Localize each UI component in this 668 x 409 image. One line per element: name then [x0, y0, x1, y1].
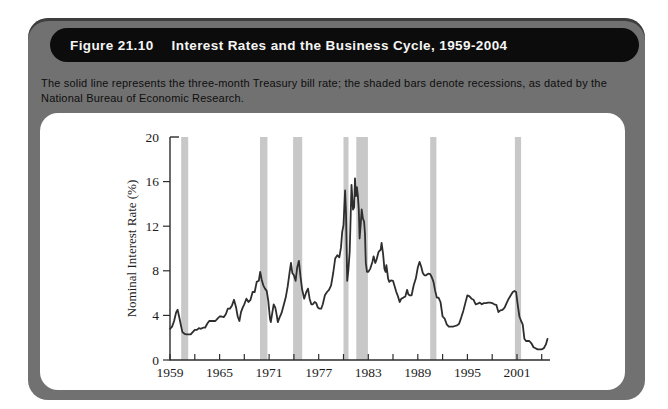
x-tick-label: 1971	[256, 365, 283, 380]
y-axis-title: Nominal Interest Rate (%)	[124, 180, 139, 318]
x-tick-label: 1989	[404, 365, 431, 380]
recession-band	[260, 137, 267, 360]
x-tick-label: 1965	[206, 365, 233, 380]
x-tick-label: 2001	[504, 365, 531, 380]
recession-band	[293, 137, 302, 360]
x-tick-label: 1983	[355, 365, 382, 380]
x-tick-label: 1959	[157, 365, 184, 380]
y-tick-label: 8	[152, 263, 159, 278]
chart-panel: 1959196519711977198319891995200104812162…	[40, 113, 625, 390]
figure-title-bar: Figure 21.10 Interest Rates and the Busi…	[50, 28, 639, 62]
figure-number: Figure 21.10	[70, 38, 154, 53]
y-tick-label: 16	[146, 174, 160, 189]
recession-band	[515, 137, 521, 360]
figure-caption: The solid line represents the three-mont…	[41, 76, 641, 106]
interest-rate-chart: 1959196519711977198319891995200104812162…	[40, 113, 625, 390]
figure-title: Interest Rates and the Business Cycle, 1…	[172, 38, 508, 53]
y-tick-label: 12	[146, 219, 160, 234]
textbook-figure-page: Figure 21.10 Interest Rates and the Busi…	[0, 0, 668, 409]
y-tick-label: 0	[152, 353, 159, 368]
y-tick-label: 20	[146, 130, 160, 145]
recession-band	[430, 137, 436, 360]
recession-band	[181, 137, 188, 360]
y-tick-label: 4	[152, 308, 159, 323]
figure-card: Figure 21.10 Interest Rates and the Busi…	[28, 18, 645, 400]
x-tick-label: 1977	[305, 365, 332, 380]
x-tick-label: 1995	[454, 365, 481, 380]
